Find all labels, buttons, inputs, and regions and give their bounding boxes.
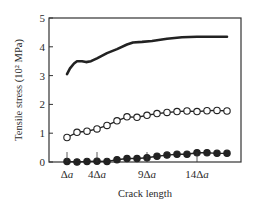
y-tick-label: 5 — [40, 12, 46, 24]
open-circle-marker — [204, 108, 210, 114]
open-circle-marker — [174, 108, 180, 114]
filled-circle-marker — [164, 152, 170, 158]
filled-circle-marker — [154, 153, 160, 159]
open-circle-marker — [94, 126, 100, 132]
x-tick-label: 14Δa — [185, 168, 209, 180]
y-tick-label: 0 — [40, 156, 46, 168]
filled-circle-marker — [224, 150, 230, 156]
y-tick-label: 1 — [40, 127, 46, 139]
plot-area — [49, 18, 241, 162]
open-circle-marker — [124, 114, 130, 120]
y-tick-label: 4 — [40, 41, 46, 53]
open-circle-marker — [134, 114, 140, 120]
open-circle-marker — [154, 110, 160, 116]
open-circle-marker — [74, 129, 80, 135]
open-circle-marker — [64, 134, 70, 140]
filled-circle-marker — [174, 151, 180, 157]
filled-circle-marker — [124, 155, 130, 161]
plot-border — [49, 18, 241, 162]
open-circle-marker — [164, 109, 170, 115]
filled-circle-marker — [214, 150, 220, 156]
open-circle-marker — [214, 107, 220, 113]
y-axis-title: Tensile stress (10² MPa) — [13, 39, 25, 141]
x-tick-label: 4Δa — [88, 168, 107, 180]
x-tick-label: Δa — [61, 168, 74, 180]
y-axis: 012345 — [40, 12, 54, 168]
tensile-stress-chart: 012345 Δa4Δa9Δa14Δa Crack length Tensile… — [0, 0, 254, 208]
open-circle-marker — [184, 108, 190, 114]
filled-circle-marker — [104, 158, 110, 164]
open-circle-marker — [194, 108, 200, 114]
x-axis-title: Crack length — [118, 188, 173, 199]
filled-circle-marker — [134, 155, 140, 161]
open-circle-marker — [114, 118, 120, 124]
series-line-1 — [67, 37, 227, 74]
series-layer — [64, 37, 230, 166]
filled-circle-marker — [204, 150, 210, 156]
y-tick-label: 3 — [40, 70, 46, 82]
filled-circle-marker — [114, 156, 120, 162]
filled-circle-marker — [184, 151, 190, 157]
filled-circle-marker — [74, 159, 80, 165]
open-circle-marker — [104, 122, 110, 128]
x-tick-label: 9Δa — [138, 168, 157, 180]
y-tick-label: 2 — [40, 98, 46, 110]
filled-circle-marker — [84, 158, 90, 164]
open-circle-marker — [144, 112, 150, 118]
open-circle-marker — [84, 128, 90, 134]
open-circle-marker — [224, 108, 230, 114]
